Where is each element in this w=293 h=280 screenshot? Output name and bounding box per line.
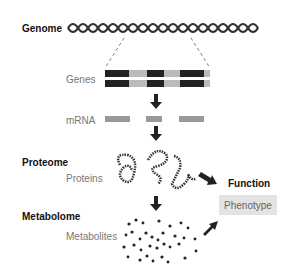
diagram-graphics — [0, 0, 293, 280]
arrow-to-phenotype-icon — [203, 221, 218, 236]
mrna-bars — [105, 116, 204, 122]
dna-helix-icon — [68, 24, 258, 32]
proteins-icon — [118, 151, 196, 188]
genes-graphic — [105, 70, 210, 87]
arrow-to-function-icon — [198, 172, 217, 185]
metabolites-icon — [122, 218, 197, 263]
zoom-dashed-lines — [105, 38, 210, 68]
